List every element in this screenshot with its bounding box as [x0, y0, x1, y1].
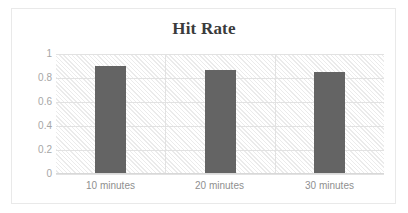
x-axis-tick-label: 30 minutes [275, 180, 384, 192]
bar [314, 72, 345, 174]
bars-layer [56, 54, 384, 174]
y-axis-tick-label: 0.2 [8, 145, 52, 155]
bar [95, 66, 126, 174]
y-axis-tick-labels: 10.80.60.40.20 [4, 54, 52, 174]
y-axis-tick-label: 1 [8, 49, 52, 59]
x-axis-tick-label: 20 minutes [165, 180, 274, 192]
chart-figure: Hit Rate 10.80.60.40.20 10 minutes20 min… [0, 0, 408, 213]
chart-title: Hit Rate [0, 19, 408, 39]
y-axis-tick-label: 0.4 [8, 121, 52, 131]
plot-area [56, 54, 384, 174]
x-axis-line [56, 173, 384, 174]
y-axis-tick-label: 0 [8, 169, 52, 179]
bar [205, 70, 236, 174]
x-axis-tick-labels: 10 minutes20 minutes30 minutes [56, 180, 384, 196]
gridline-horizontal [56, 174, 384, 175]
y-axis-tick-label: 0.8 [8, 73, 52, 83]
y-axis-tick-label: 0.6 [8, 97, 52, 107]
x-axis-tick-label: 10 minutes [56, 180, 165, 192]
